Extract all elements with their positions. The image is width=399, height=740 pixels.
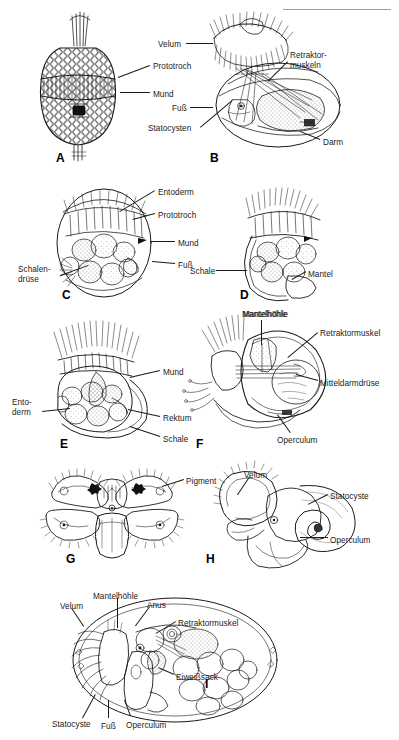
label-derm: derm (12, 408, 31, 418)
label-velum: Velum (60, 602, 83, 612)
label-mantelh-hle: Mantelhöhle (242, 310, 287, 320)
label-mund: Mund (163, 368, 184, 378)
illustration-artwork (0, 0, 399, 740)
leader-line-f-3 (277, 415, 291, 433)
leader-line-f-2 (296, 374, 318, 381)
leader-line-e-3 (128, 409, 160, 417)
panel-letter-d: D (240, 288, 249, 302)
label-ento: Ento- (12, 398, 32, 408)
leader-line-e-0 (130, 370, 160, 378)
label-statocysten: Statocysten (148, 124, 191, 134)
leader-line-i-7 (124, 700, 131, 716)
leader-line-b-3 (268, 62, 288, 82)
label-pigment: Pigment (186, 477, 216, 487)
panel-letter-g: G (66, 552, 76, 566)
leader-line-a-1 (120, 92, 150, 93)
label-schalen: Schalen- (18, 265, 51, 275)
leader-line-i-4 (158, 667, 174, 675)
panel-letter-a: A (56, 151, 65, 165)
leader-line-f-1 (288, 332, 318, 358)
label-muskeln: muskeln (290, 61, 321, 71)
leader-line-h-1 (308, 494, 328, 505)
label-operculum: Operculum (330, 536, 371, 546)
leader-line-b-5 (300, 131, 320, 140)
panel-letter-i: I (205, 677, 209, 691)
leader-line-b-1 (190, 107, 213, 108)
leader-line-c-3 (152, 261, 175, 264)
leader-line-e-1 (42, 408, 70, 412)
label-prototroch: Prototroch (158, 211, 196, 221)
leader-line-f-0 (261, 320, 262, 345)
label-operculum: Operculum (126, 721, 167, 731)
panel-letter-c: C (62, 288, 71, 302)
label-mantelh-hle: Mantelhöhle (93, 592, 138, 602)
figure-page: PrototrochMundVelumFußStatocystenRetrakt… (0, 0, 399, 740)
leader-line-i-1 (117, 598, 118, 628)
label-rektum: Rektum (163, 414, 192, 424)
leader-line-e-4 (130, 426, 160, 437)
leader-line-i-5 (82, 694, 96, 718)
label-prototroch: Prototroch (153, 62, 191, 72)
leader-line-b-2 (200, 100, 232, 128)
header-rule (283, 9, 391, 10)
label-darm: Darm (323, 138, 343, 148)
panel-letter-b: B (210, 151, 219, 165)
leader-line-h-2 (300, 537, 328, 538)
label-dr-se: drüse (18, 275, 39, 285)
label-statocyste: Statocyste (330, 492, 369, 502)
panel-letter-h: H (206, 552, 215, 566)
label-velum: Velum (158, 40, 181, 50)
label-anus: Anus (147, 601, 166, 611)
leader-line-a-0 (118, 65, 150, 78)
label-retraktor: Retraktor- (290, 51, 327, 61)
leader-line-i-6 (108, 700, 109, 718)
leader-line-i-3 (156, 621, 176, 634)
label-velum: Velum (244, 471, 267, 481)
leader-line-g-0 (162, 479, 184, 487)
label-mantel: Mantel (308, 270, 333, 280)
leader-line-d-1 (292, 271, 306, 280)
label-entoderm: Entoderm (158, 188, 194, 198)
label-schale: Schale (190, 267, 215, 277)
leader-line-c-1 (133, 213, 155, 220)
label-fu: Fuß (172, 104, 187, 114)
leader-line-c-4 (60, 265, 88, 276)
label-mitteldarmdr-se: Mitteldarmdrüse (320, 379, 379, 389)
label-retraktormuskel: Retraktormuskel (178, 619, 238, 629)
panel-letter-e: E (60, 437, 68, 451)
label-schale: Schale (163, 435, 188, 445)
label-mund: Mund (178, 239, 199, 249)
leader-line-c-2 (150, 241, 175, 242)
leader-line-d-0 (216, 270, 247, 271)
panel-letter-f: F (196, 437, 204, 451)
leader-line-c-0 (120, 190, 155, 212)
label-operculum: Operculum (277, 436, 318, 446)
label-eiwei-sack: Eiweißsack (176, 673, 218, 683)
label-statocyste: Statocyste (52, 720, 91, 730)
label-fu: Fuß (101, 722, 116, 732)
leader-line-b-0 (186, 43, 213, 44)
label-mund: Mund (153, 90, 174, 100)
label-retraktormuskel: Retraktormuskel (320, 329, 380, 339)
